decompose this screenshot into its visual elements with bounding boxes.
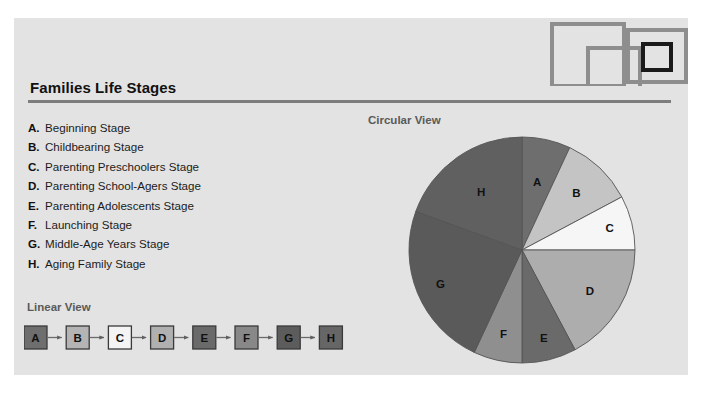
- list-item-key: A.: [28, 118, 45, 137]
- life-stages-legend-list: A.Beginning Stage B.Childbearing Stage C…: [28, 118, 358, 273]
- list-item-label: Aging Family Stage: [45, 257, 146, 270]
- linear-view-heading: Linear View: [27, 301, 91, 313]
- linear-node-label: H: [327, 332, 335, 344]
- list-item-label: Middle-Age Years Stage: [45, 237, 169, 250]
- page-title: Families Life Stages: [30, 79, 176, 96]
- linear-node-label: E: [200, 332, 208, 344]
- pie-slice-label: A: [533, 176, 541, 188]
- list-item-label: Parenting School-Agers Stage: [45, 179, 201, 192]
- list-item-label: Parenting Adolescents Stage: [45, 199, 194, 212]
- linear-node-label: C: [116, 332, 124, 344]
- pie-slice-label: D: [586, 285, 594, 297]
- list-item-label: Parenting Preschoolers Stage: [45, 160, 199, 173]
- circular-view-pie-chart: ABCDEFGH: [406, 134, 638, 366]
- list-item: D.Parenting School-Agers Stage: [28, 176, 358, 195]
- linear-node-label: B: [74, 332, 82, 344]
- list-item-key: B.: [28, 137, 45, 156]
- logo-square-right: [628, 30, 686, 82]
- list-item-key: D.: [28, 176, 45, 195]
- pie-slice-label: F: [500, 328, 507, 340]
- list-item: F.Launching Stage: [28, 215, 358, 234]
- list-item: H.Aging Family Stage: [28, 254, 358, 273]
- pie-slice-label: H: [477, 186, 485, 198]
- pie-slice-label: G: [436, 278, 445, 290]
- pie-slice-label: B: [572, 187, 580, 199]
- list-item-key: E.: [28, 196, 45, 215]
- list-item-label: Childbearing Stage: [45, 140, 144, 153]
- title-divider: [28, 100, 671, 103]
- linear-node-label: A: [31, 332, 39, 344]
- list-item-key: C.: [28, 157, 45, 176]
- logo-square-black: [643, 44, 671, 70]
- list-item: A.Beginning Stage: [28, 118, 358, 137]
- list-item: E.Parenting Adolescents Stage: [28, 196, 358, 215]
- linear-view-diagram: ABCDEFGH: [24, 320, 344, 354]
- list-item-label: Launching Stage: [45, 218, 132, 231]
- list-item-key: G.: [28, 234, 45, 253]
- linear-node-label: F: [243, 332, 250, 344]
- linear-node-label: G: [284, 332, 293, 344]
- list-item: B.Childbearing Stage: [28, 137, 358, 156]
- list-item: G.Middle-Age Years Stage: [28, 234, 358, 253]
- list-item-key: H.: [28, 254, 45, 273]
- circular-view-heading: Circular View: [368, 114, 441, 126]
- linear-node-label: D: [158, 332, 166, 344]
- list-item-key: F.: [28, 215, 45, 234]
- list-item: C.Parenting Preschoolers Stage: [28, 157, 358, 176]
- pie-slice-label: C: [606, 222, 614, 234]
- list-item-label: Beginning Stage: [45, 121, 130, 134]
- overlapping-squares-logo: [546, 4, 698, 86]
- pie-slice-label: E: [540, 332, 548, 344]
